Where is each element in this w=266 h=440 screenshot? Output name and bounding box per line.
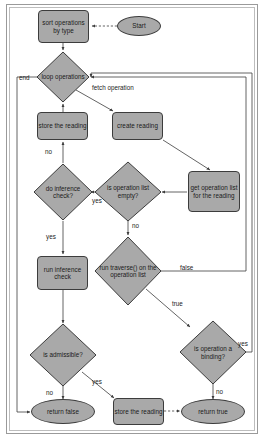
node-return-false-label: return false xyxy=(47,408,79,415)
edge-label-loop-end: end xyxy=(19,74,30,81)
edge-label-admissible-yes: yes xyxy=(92,378,102,385)
edge-label-traverse-true: true xyxy=(172,300,183,307)
node-store-reading-bottom[interactable]: store the reading xyxy=(113,398,164,425)
node-store-reading-bottom-label: store the reading xyxy=(114,408,162,415)
flowchart-page: Start sort operations by type loop opera… xyxy=(0,0,266,440)
node-start[interactable]: Start xyxy=(117,16,161,36)
node-is-binding-label: is operation a binding? xyxy=(180,345,246,360)
node-get-operation-list[interactable]: get operation list for the reading xyxy=(188,171,240,212)
node-return-true-label: return true xyxy=(198,408,228,415)
node-run-inference-check[interactable]: run inference check xyxy=(37,256,88,290)
edge-label-fetch-operation: fetch operation xyxy=(92,84,134,91)
node-run-traverse-label: run traverse() on the operation list xyxy=(95,264,161,279)
node-create-reading[interactable]: create reading xyxy=(112,112,163,140)
node-store-reading-top[interactable]: store the reading xyxy=(37,112,88,140)
node-do-inference-check[interactable]: do inference check? xyxy=(34,164,92,220)
edge-label-inference-no: no xyxy=(45,148,52,155)
node-store-reading-top-label: store the reading xyxy=(38,122,86,129)
node-loop-operations-label: loop operations xyxy=(37,73,89,80)
edge-create-to-get-list xyxy=(163,140,210,170)
node-create-reading-label: create reading xyxy=(117,122,158,129)
node-return-false[interactable]: return false xyxy=(31,399,95,424)
node-is-list-empty[interactable]: is operation list empty? xyxy=(95,162,161,221)
node-loop-operations[interactable]: loop operations xyxy=(37,52,89,102)
node-is-list-empty-label: is operation list empty? xyxy=(95,184,161,199)
edge-label-empty-no: no xyxy=(132,222,139,229)
node-get-operation-list-label: get operation list for the reading xyxy=(189,184,239,199)
node-start-label: Start xyxy=(132,22,146,29)
node-is-binding[interactable]: is operation a binding? xyxy=(180,321,246,384)
edge-label-binding-no: no xyxy=(216,388,223,395)
node-return-true[interactable]: return true xyxy=(181,399,245,424)
node-run-inference-check-label: run inference check xyxy=(38,266,87,281)
edge-label-traverse-false: false xyxy=(180,264,193,271)
node-sort-operations[interactable]: sort operations by type xyxy=(38,10,89,43)
node-run-traverse[interactable]: run traverse() on the operation list xyxy=(95,237,161,305)
edge-label-inference-yes: yes xyxy=(46,233,56,240)
node-is-admissible-label: is admissible? xyxy=(30,351,96,358)
node-is-admissible[interactable]: is admissible? xyxy=(30,324,96,386)
edge-label-admissible-no: no xyxy=(46,389,53,396)
node-do-inference-check-label: do inference check? xyxy=(34,185,92,200)
node-sort-operations-label: sort operations by type xyxy=(39,19,88,34)
